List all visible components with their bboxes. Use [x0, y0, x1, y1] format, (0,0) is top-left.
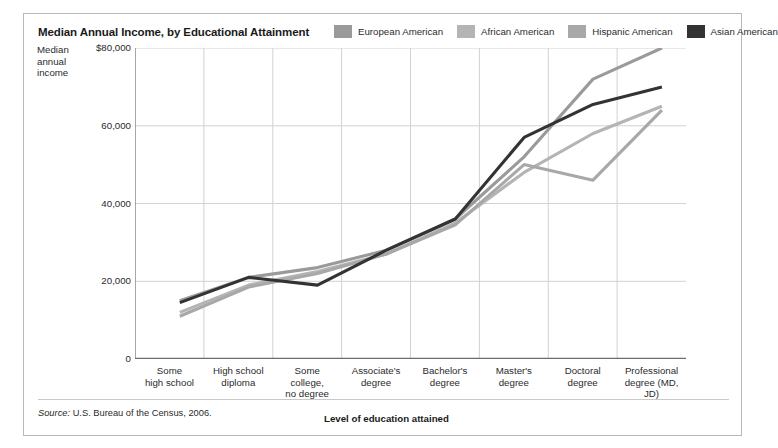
y-tick-label: 40,000	[101, 198, 131, 209]
legend-swatch-icon	[568, 25, 586, 38]
chart-legend: European American African American Hispa…	[334, 25, 778, 38]
legend-item-african-american[interactable]: African American	[457, 25, 554, 38]
x-tick-label: Somehigh school	[135, 365, 204, 388]
legend-item-asian-american[interactable]: Asian American	[687, 25, 778, 38]
legend-label: Asian American	[711, 26, 778, 37]
source-prefix: Source:	[38, 408, 70, 418]
chart-title: Median Annual Income, by Educational Att…	[38, 26, 309, 38]
x-tick-label: High schooldiploma	[204, 365, 273, 388]
series-lines	[180, 48, 662, 316]
divider	[38, 399, 729, 400]
figure-panel: Median Annual Income, by Educational Att…	[23, 13, 742, 436]
series-line-hispanic-american	[180, 110, 662, 316]
y-axis-tick-labels: 020,00040,00060,000$80,000	[79, 39, 131, 379]
y-tick-label: $80,000	[96, 42, 131, 53]
y-tick-label: 60,000	[101, 120, 131, 131]
legend-label: Hispanic American	[592, 26, 672, 37]
source-text: U.S. Bureau of the Census, 2006.	[73, 408, 212, 418]
line-chart-svg	[135, 48, 686, 359]
legend-label: European American	[358, 26, 443, 37]
legend-swatch-icon	[334, 25, 352, 38]
y-tick-label: 20,000	[101, 275, 131, 286]
x-tick-label: Somecollege,no degree	[273, 365, 342, 400]
x-axis-tick-labels: Somehigh schoolHigh schooldiplomaSomecol…	[135, 365, 686, 417]
x-tick-label: Bachelor'sdegree	[411, 365, 480, 388]
x-tick-label: Associate'sdegree	[342, 365, 411, 388]
x-axis-title: Level of education attained	[324, 413, 449, 424]
series-line-asian-american	[180, 87, 662, 303]
y-tick-label: 0	[126, 353, 131, 364]
gridlines	[135, 48, 686, 359]
x-tick-label: Master'sdegree	[479, 365, 548, 388]
legend-swatch-icon	[457, 25, 475, 38]
plot-area	[135, 48, 686, 359]
legend-label: African American	[481, 26, 554, 37]
x-tick-label: Professionaldegree (MD,JD)	[617, 365, 686, 400]
legend-item-european-american[interactable]: European American	[334, 25, 443, 38]
x-tick-label: Doctoraldegree	[548, 365, 617, 388]
series-line-european-american	[180, 48, 662, 301]
legend-swatch-icon	[687, 25, 705, 38]
y-axis-title: Median annual income	[37, 44, 83, 79]
source-note: Source: U.S. Bureau of the Census, 2006.	[38, 408, 212, 418]
legend-item-hispanic-american[interactable]: Hispanic American	[568, 25, 672, 38]
